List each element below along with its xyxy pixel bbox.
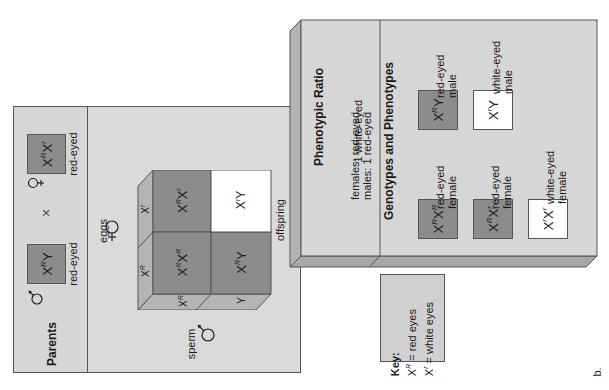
key-title: Key: [389, 276, 402, 376]
genotype-xry-white: XrY [473, 90, 513, 130]
male-parent-genotype: XRY [27, 244, 66, 284]
genotype-xrxr-white-label: white-eyedfemale [544, 140, 568, 204]
genotype-xrxr-white: XrXr [528, 199, 568, 239]
offspring-label: offspring [274, 195, 286, 245]
punnett-cell-xry-white: XrY [234, 180, 248, 220]
male-phenotype: red-eyed [67, 239, 79, 289]
sperm-allele-1: XR [177, 290, 189, 312]
ratio-title: Phenotypic Ratio [312, 62, 326, 172]
sperm-allele-2: Y [236, 290, 247, 312]
cross-symbol: × [38, 207, 54, 219]
key-line-white: Xr = white eyes [419, 276, 436, 376]
genotypes-title: Genotypes and Phenotypes [382, 61, 396, 221]
key-content: Key: XR = red eyes Xr = white eyes [389, 276, 435, 376]
eggs-female-icon [104, 220, 118, 242]
genotype-xry-white-label: white-eyedmale [490, 30, 514, 94]
genotype-xrxr-label: red-eyedfemale [434, 149, 458, 209]
punnett-square: XR Xr XR Y XRXR XRXr XRY XrY [137, 170, 272, 310]
sperm-male-icon [196, 322, 216, 342]
ratio-line-white: 1 white-eyed [352, 100, 364, 184]
punnett-cell-xrxr: XRXR [175, 243, 190, 283]
egg-allele-2: Xr [139, 198, 151, 220]
figure-label: b. [591, 365, 603, 379]
genotype-xrxr-het-label: red-eyedfemale [489, 149, 513, 209]
genotype-xry-label: red-eyedmale [434, 38, 458, 98]
punnett-cell-xrxr-het: XRXr [175, 181, 190, 221]
female-phenotype: red-eyed [67, 129, 79, 179]
parents-title: Parents [46, 314, 58, 374]
punnett-cell-xry: XRY [234, 243, 249, 283]
female-parent-genotype: XRXr [27, 134, 66, 174]
key-line-red: XR = red eyes [402, 276, 419, 376]
egg-allele-1: XR [139, 260, 151, 282]
male-symbol-icon [28, 290, 42, 304]
female-symbol-icon [27, 176, 45, 190]
